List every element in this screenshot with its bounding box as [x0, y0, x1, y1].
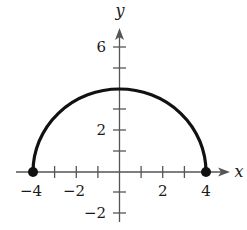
- x-axis-label: x: [234, 162, 243, 181]
- x-tick-label-neg4: −4: [20, 182, 42, 200]
- endpoint-left: [28, 167, 38, 177]
- y-tick-label-2: 2: [96, 121, 106, 139]
- y-axis-label: y: [114, 1, 125, 20]
- endpoint-right: [201, 167, 211, 177]
- x-tick-label-neg2: −2: [63, 182, 85, 200]
- chart: −4 −2 2 4 6 2 −2 x y: [0, 0, 247, 230]
- y-tick-label-6: 6: [96, 38, 106, 56]
- y-tick-label-neg2: −2: [84, 204, 106, 222]
- x-tick-label-2: 2: [158, 182, 168, 200]
- x-tick-label-4: 4: [201, 182, 211, 200]
